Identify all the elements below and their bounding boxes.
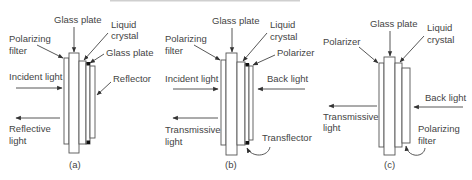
label-glass-plate: Glass plate	[370, 18, 418, 29]
label-transmissive-light-1: Transmissive	[165, 124, 221, 135]
label-polarizing-filter-2: filter	[165, 45, 183, 56]
label-liquid-crystal-1: Liquid	[427, 22, 452, 33]
lcd-modes-diagram: Glass plate Liquid crystal Polarizing fi…	[0, 0, 472, 180]
label-polarizing-filter-1: Polarizing	[418, 123, 460, 134]
label-reflective-light-2: light	[9, 135, 27, 146]
label-polarizing-filter-2: filter	[418, 135, 436, 146]
polarizer-layer	[249, 66, 253, 140]
cropped-caption-fragment	[110, 0, 300, 2]
label-liquid-crystal-2: crystal	[111, 30, 138, 41]
reflector-layer	[90, 66, 95, 138]
label-transmissive-light-2: light	[165, 136, 183, 147]
label-polarizing-filter-2: filter	[9, 45, 27, 56]
polarizing-filter-callout-arrow	[406, 146, 425, 155]
polarizer-layer	[379, 63, 384, 147]
panel-c-transmissive: Glass plate Liquid crystal Polarizer Bac…	[323, 18, 467, 170]
polarizing-filter-layer	[64, 58, 69, 144]
liquid-crystal-layer	[237, 62, 245, 145]
panel-b-caption: (b)	[225, 159, 237, 170]
label-liquid-crystal-2: crystal	[270, 31, 297, 42]
panel-a-caption: (a)	[69, 159, 81, 170]
polarizing-filter-layer	[402, 68, 410, 143]
panel-a-reflective: Glass plate Liquid crystal Polarizing fi…	[9, 14, 154, 170]
label-back-light: Back light	[267, 73, 309, 84]
panel-b-transflective: Glass plate Liquid crystal Polarizing fi…	[165, 15, 315, 170]
label-glass-plate: Glass plate	[54, 14, 102, 25]
label-polarizing-filter-1: Polarizing	[9, 33, 51, 44]
polarizing-filter-layer	[221, 60, 226, 145]
label-glass-plate-rear: Glass plate	[106, 47, 154, 58]
transflector-layer	[245, 64, 249, 144]
label-back-light: Back light	[425, 92, 467, 103]
label-glass-plate: Glass plate	[212, 15, 260, 26]
label-liquid-crystal-2: crystal	[427, 34, 454, 45]
liquid-crystal-layer	[79, 61, 86, 144]
glass-plate-front	[384, 57, 395, 155]
label-reflector: Reflector	[113, 73, 151, 84]
label-transmissive-light-2: light	[323, 122, 341, 133]
label-polarizer: Polarizer	[323, 36, 361, 47]
glass-plate-front	[226, 53, 237, 155]
panel-c-caption: (c)	[384, 159, 395, 170]
seal-marker-bottom	[87, 141, 91, 145]
label-incident-light: Incident light	[165, 73, 219, 84]
label-incident-light: Incident light	[9, 71, 63, 82]
label-liquid-crystal-1: Liquid	[111, 19, 136, 30]
label-reflective-light-1: Reflective	[9, 123, 51, 134]
seal-marker-top	[246, 63, 250, 67]
glass-plate-front	[69, 53, 79, 153]
seal-marker-bottom	[246, 141, 250, 145]
label-polarizing-filter-1: Polarizing	[165, 33, 207, 44]
label-liquid-crystal-1: Liquid	[270, 19, 295, 30]
transflector-callout-arrow	[247, 147, 270, 155]
label-transmissive-light-1: Transmissive	[323, 111, 379, 122]
label-polarizer: Polarizer	[277, 47, 315, 58]
liquid-crystal-layer	[395, 63, 402, 147]
seal-marker-top	[87, 62, 91, 66]
glass-plate-rear	[86, 63, 90, 144]
label-transflector: Transflector	[262, 132, 312, 143]
